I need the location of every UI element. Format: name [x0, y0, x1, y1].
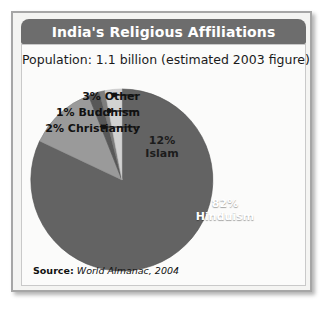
- slice-label-islam: 12% Islam: [134, 134, 190, 160]
- slice-label-islam-name: Islam: [134, 147, 190, 160]
- slice-label-islam-percent: 12%: [134, 134, 190, 147]
- source-text: World Almanac, 2004: [77, 265, 179, 276]
- slice-label-hinduism: 82% Hinduism: [182, 197, 268, 223]
- chart-card: India's Religious Affiliations Populatio…: [11, 11, 312, 292]
- slice-label-hinduism-percent: 82%: [182, 197, 268, 210]
- chart-title-banner: India's Religious Affiliations: [21, 19, 306, 44]
- slice-label-buddhism: 1% Buddhism: [30, 106, 140, 119]
- slice-label-other: 3% Other: [30, 90, 140, 103]
- slice-label-hinduism-name: Hinduism: [182, 210, 268, 223]
- chart-panel: Population: 1.1 billion (estimated 2003 …: [21, 44, 306, 286]
- slice-label-christianity: 2% Christianity: [26, 122, 140, 135]
- source-label: Source:: [33, 265, 74, 276]
- pie-chart: [22, 45, 307, 287]
- page-title: India's Religious Affiliations: [52, 24, 276, 40]
- source-note: Source: World Almanac, 2004: [33, 265, 179, 276]
